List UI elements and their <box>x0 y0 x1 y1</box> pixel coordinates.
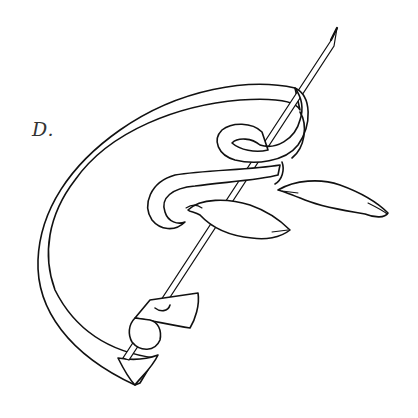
ribbon-needle-drawing <box>0 0 418 418</box>
center-leaf <box>186 200 290 238</box>
right-leaf <box>278 181 388 217</box>
lower-ribbon-wrap <box>129 293 198 349</box>
illustration-canvas: D. <box>0 0 418 418</box>
